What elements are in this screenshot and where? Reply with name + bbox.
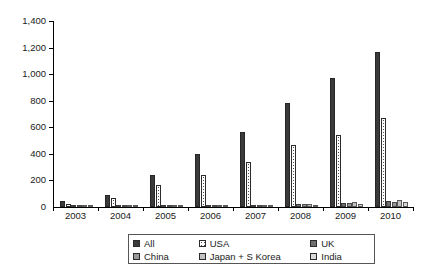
x-tick-mark (368, 208, 369, 211)
y-tick-label-800: 800 (0, 96, 46, 105)
bar-usa-2005 (156, 185, 161, 207)
bar-uk-2004 (116, 205, 121, 207)
legend-item-china[interactable]: China (133, 252, 199, 262)
bar-usa-2006 (201, 175, 206, 207)
y-tick-label-1200: 1,200 (0, 43, 46, 52)
y-tick-label-0: 0 (0, 202, 46, 211)
bar-all-2005 (150, 175, 155, 207)
bar-japan-s-korea-2007 (262, 205, 267, 207)
legend-row: AllUSAUK (133, 237, 370, 250)
bar-uk-2007 (251, 205, 256, 207)
x-tick-label-2009: 2009 (323, 210, 368, 221)
legend-row: ChinaJapan + S KoreaIndia (133, 250, 370, 263)
bar-china-2006 (212, 205, 217, 207)
legend-swatch-icon (199, 253, 206, 260)
bar-uk-2003 (71, 205, 76, 207)
x-tick-label-2008: 2008 (278, 210, 323, 221)
bar-all-2009 (330, 78, 335, 207)
legend-item-japan-s-korea[interactable]: Japan + S Korea (199, 252, 311, 262)
y-tick-label-1000: 1,000 (0, 69, 46, 78)
x-tick-mark (323, 208, 324, 211)
bar-japan-s-korea-2008 (307, 204, 312, 207)
bar-india-2008 (313, 205, 318, 207)
x-tick-mark (278, 208, 279, 211)
legend-label: All (144, 239, 155, 249)
legend-label: USA (210, 239, 230, 249)
bar-india-2009 (358, 204, 363, 207)
bar-china-2010 (392, 202, 397, 207)
bar-usa-2010 (381, 118, 386, 207)
bar-group-2010 (369, 21, 414, 207)
legend-swatch-icon (310, 240, 317, 247)
bar-india-2007 (268, 205, 273, 207)
legend-label: UK (321, 239, 334, 249)
x-tick-mark (98, 208, 99, 211)
x-tick-mark (413, 208, 414, 211)
x-tick-mark (53, 208, 54, 211)
bar-all-2003 (60, 201, 65, 207)
bar-china-2003 (77, 205, 82, 207)
bar-group-2004 (99, 21, 144, 207)
bar-china-2009 (347, 203, 352, 207)
y-tick-label-200: 200 (0, 175, 46, 184)
y-tick-label-600: 600 (0, 122, 46, 131)
bar-usa-2009 (336, 135, 341, 207)
bar-usa-2007 (246, 162, 251, 207)
bar-usa-2003 (66, 204, 71, 207)
bar-india-2005 (178, 205, 183, 207)
legend-item-india[interactable]: India (310, 252, 370, 262)
bar-all-2006 (195, 154, 200, 207)
bar-japan-s-korea-2004 (127, 205, 132, 207)
chart-legend: AllUSAUKChinaJapan + S KoreaIndia (128, 234, 375, 264)
plot-area (53, 21, 414, 208)
bar-japan-s-korea-2009 (352, 202, 357, 207)
legend-label: Japan + S Korea (210, 252, 281, 262)
legend-item-all[interactable]: All (133, 239, 199, 249)
bar-group-2008 (279, 21, 324, 207)
bar-usa-2004 (111, 198, 116, 207)
bar-china-2004 (122, 205, 127, 207)
y-tick-label-1400: 1,400 (0, 16, 46, 25)
bar-india-2006 (223, 205, 228, 207)
legend-item-uk[interactable]: UK (310, 239, 370, 249)
bar-all-2010 (375, 52, 380, 207)
bar-all-2008 (285, 103, 290, 207)
bar-all-2004 (105, 195, 110, 207)
bar-uk-2006 (206, 205, 211, 207)
x-tick-label-2005: 2005 (143, 210, 188, 221)
bar-japan-s-korea-2010 (397, 200, 402, 207)
x-tick-mark (188, 208, 189, 211)
bar-india-2004 (133, 205, 138, 207)
bar-india-2003 (88, 205, 93, 207)
bar-china-2008 (302, 204, 307, 207)
bar-all-2007 (240, 132, 245, 207)
bar-india-2010 (403, 202, 408, 207)
bar-group-2009 (324, 21, 369, 207)
bar-usa-2008 (291, 145, 296, 207)
bar-japan-s-korea-2005 (172, 205, 177, 207)
bar-uk-2005 (161, 205, 166, 207)
x-tick-mark (143, 208, 144, 211)
bar-china-2005 (167, 205, 172, 207)
bar-uk-2010 (386, 201, 391, 207)
legend-label: India (321, 252, 342, 262)
legend-label: China (144, 252, 169, 262)
legend-swatch-icon (133, 240, 140, 247)
bar-china-2007 (257, 205, 262, 207)
bar-group-2006 (189, 21, 234, 207)
bar-group-2005 (144, 21, 189, 207)
x-tick-label-2004: 2004 (98, 210, 143, 221)
legend-swatch-icon (133, 253, 140, 260)
bar-japan-s-korea-2003 (82, 205, 87, 207)
legend-swatch-icon (199, 240, 206, 247)
bar-uk-2009 (341, 203, 346, 207)
bar-japan-s-korea-2006 (217, 205, 222, 207)
y-tick-label-400: 400 (0, 149, 46, 158)
bar-chart: 1,4001,2001,0008006004002000 20032004200… (0, 0, 421, 277)
bar-group-2003 (54, 21, 99, 207)
x-tick-mark (233, 208, 234, 211)
legend-swatch-icon (310, 253, 317, 260)
legend-item-usa[interactable]: USA (199, 239, 311, 249)
bar-group-2007 (234, 21, 279, 207)
bar-uk-2008 (296, 204, 301, 207)
